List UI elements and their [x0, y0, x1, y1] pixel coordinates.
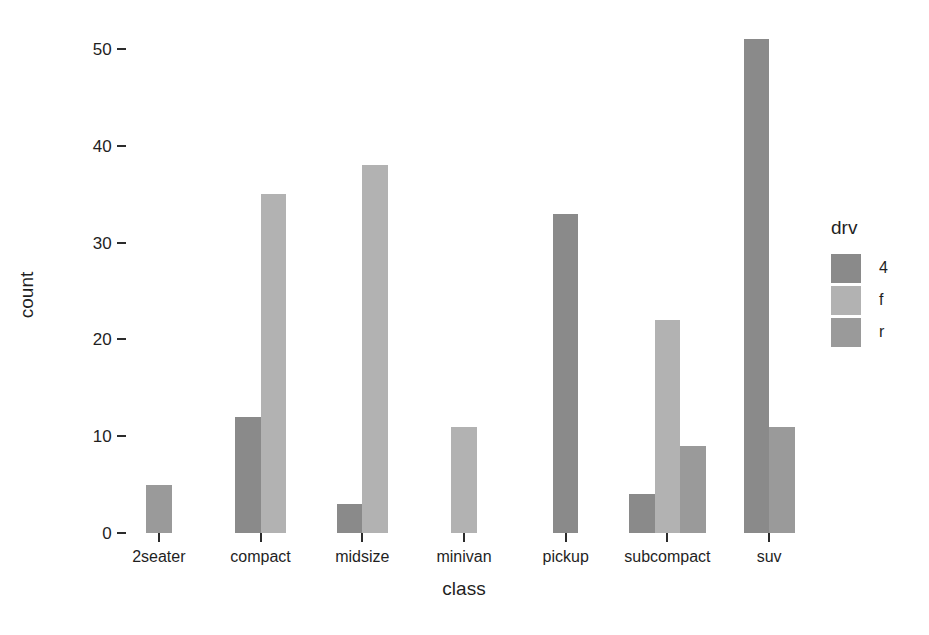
legend-label: r	[879, 324, 884, 340]
bar-group-subcompact	[617, 20, 719, 533]
bar-compact-4[interactable]	[235, 417, 261, 533]
x-tick-mark	[768, 533, 770, 542]
x-tick-label-subcompact: subcompact	[624, 549, 710, 565]
bar-group-2seater	[108, 20, 210, 533]
legend-item-r[interactable]: r	[831, 317, 926, 347]
x-tick-mark	[361, 533, 363, 542]
bar-midsize-f[interactable]	[362, 165, 388, 533]
legend-swatch-icon	[831, 318, 861, 347]
bar-chart: count 01020304050 2seatercompactmidsizem…	[0, 0, 929, 635]
bar-compact-f[interactable]	[261, 194, 287, 533]
legend-title: drv	[831, 218, 926, 237]
bar-suv-r[interactable]	[769, 427, 795, 533]
bar-group-pickup	[515, 20, 617, 533]
bar-subcompact-4[interactable]	[629, 494, 655, 533]
x-tick-label-suv: suv	[757, 549, 782, 565]
x-tick-label-minivan: minivan	[436, 549, 491, 565]
x-tick-mark	[666, 533, 668, 542]
bar-group-compact	[210, 20, 312, 533]
bar-group-midsize	[311, 20, 413, 533]
bar-suv-4[interactable]	[744, 39, 770, 533]
legend: drv 4fr	[831, 218, 926, 349]
legend-swatch-icon	[831, 286, 861, 315]
legend-items: 4fr	[831, 253, 926, 347]
legend-item-4[interactable]: 4	[831, 253, 926, 283]
bar-subcompact-f[interactable]	[655, 320, 681, 533]
legend-label: f	[879, 292, 883, 308]
x-tick-mark	[565, 533, 567, 542]
plot-panel	[108, 20, 820, 533]
x-tick-mark	[158, 533, 160, 542]
legend-label: 4	[879, 260, 888, 276]
x-tick-label-compact: compact	[230, 549, 290, 565]
x-axis-title: class	[442, 578, 485, 600]
x-tick-mark	[260, 533, 262, 542]
legend-swatch-icon	[831, 254, 861, 283]
legend-item-f[interactable]: f	[831, 285, 926, 315]
bar-group-minivan	[413, 20, 515, 533]
x-tick-label-pickup: pickup	[543, 549, 589, 565]
x-tick-mark	[463, 533, 465, 542]
bar-minivan-f[interactable]	[451, 427, 477, 533]
bar-group-suv	[718, 20, 820, 533]
x-axis: 2seatercompactmidsizeminivanpickupsubcom…	[108, 533, 820, 635]
bar-midsize-4[interactable]	[337, 504, 363, 533]
bar-2seater-r[interactable]	[146, 485, 172, 533]
y-axis-title: count	[16, 272, 38, 318]
x-tick-label-midsize: midsize	[335, 549, 389, 565]
bar-pickup-4[interactable]	[553, 214, 579, 533]
bar-subcompact-r[interactable]	[680, 446, 706, 533]
x-tick-label-2seater: 2seater	[132, 549, 185, 565]
